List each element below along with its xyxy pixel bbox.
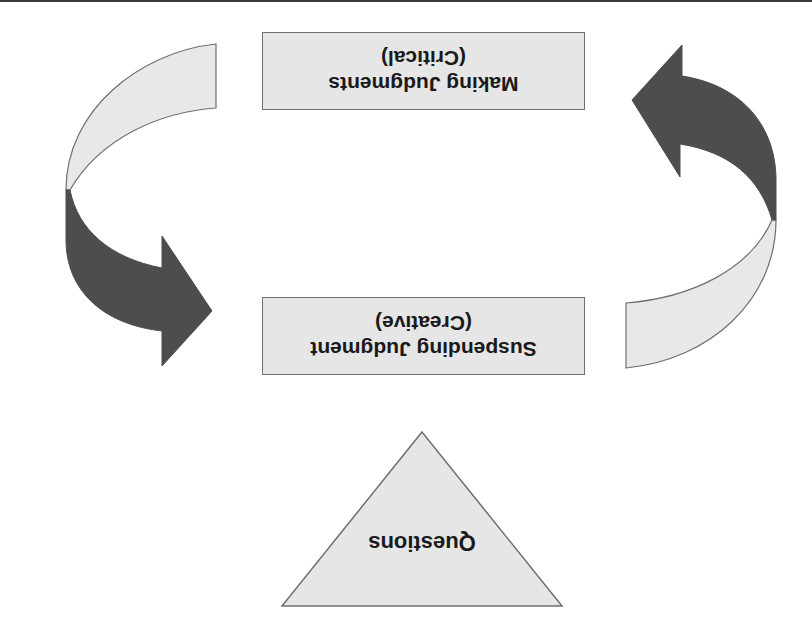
questions-triangle: [282, 432, 562, 606]
making-judgments-box: Making Judgments (Critical): [262, 32, 585, 110]
suspending-judgment-title: Suspending Judgment: [310, 336, 536, 362]
making-judgments-subtitle: (Critical): [381, 45, 466, 71]
suspending-judgment-box: Suspending Judgment (Creative): [262, 297, 585, 375]
making-judgments-title: Making Judgments: [328, 71, 518, 97]
left-cycle-arrow-icon: [66, 44, 216, 366]
suspending-judgment-subtitle: (Creative): [375, 310, 472, 336]
questions-label: Questions: [342, 530, 502, 556]
right-cycle-arrow-icon: [626, 45, 776, 368]
